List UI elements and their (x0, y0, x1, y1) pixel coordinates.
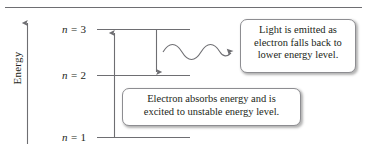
callout-emission: Light is emitted as electron falls back … (240, 19, 356, 73)
level-label-n2-equals: = (71, 69, 78, 81)
level-label-n1: n = 1 (62, 131, 86, 143)
callout-emission-line-3: lower energy level. (246, 49, 350, 62)
photon-wave-arrow (163, 45, 231, 60)
level-label-n1-symbol: n (62, 131, 68, 143)
callout-absorption: Electron absorbs energy and is excited t… (122, 88, 301, 126)
callout-emission-line-2: electron falls back to (246, 37, 350, 50)
energy-axis-label: Energy (11, 38, 23, 98)
level-label-n3-equals: = (71, 23, 78, 35)
callout-absorption-line-2: excited to unstable energy level. (128, 106, 295, 119)
energy-level-diagram: Energy n = 3 n = 2 n = 1 Light is emitte… (0, 0, 367, 155)
level-label-n3-symbol: n (62, 23, 68, 35)
level-label-n1-value: 1 (80, 131, 86, 143)
callout-emission-line-1: Light is emitted as (246, 24, 350, 37)
level-label-n3-value: 3 (80, 23, 86, 35)
level-label-n3: n = 3 (62, 23, 86, 35)
level-label-n2-value: 2 (80, 69, 86, 81)
level-label-n2: n = 2 (62, 69, 86, 81)
callout-absorption-line-1: Electron absorbs energy and is (128, 93, 295, 106)
level-label-n1-equals: = (71, 131, 78, 143)
level-label-n2-symbol: n (62, 69, 68, 81)
